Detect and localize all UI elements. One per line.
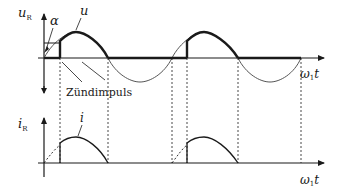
alpha-label: α <box>50 13 59 28</box>
ignition-pointer-2 <box>110 62 189 82</box>
load-current-pulse-1 <box>60 137 108 163</box>
i-curve-label: i <box>80 111 84 125</box>
load-voltage-segment-1 <box>60 32 108 58</box>
load-current-pulse-2 <box>187 137 238 163</box>
u-curve-label: u <box>80 3 88 18</box>
ignition-pointer-1 <box>62 62 82 82</box>
bottom-y-label: iR <box>18 116 28 133</box>
thyristor-phase-control-diagram: uR α u ω1t Zündimpuls iR i ω1t <box>0 0 344 193</box>
top-x-label: ω1t <box>300 67 319 82</box>
bottom-plot: iR i ω1t <box>18 111 324 188</box>
bottom-x-label: ω1t <box>300 173 319 188</box>
ignition-pulse-label: Zündimpuls <box>66 86 132 99</box>
load-voltage-segment-2 <box>187 32 238 58</box>
top-plot: uR α u ω1t Zündimpuls <box>18 3 324 99</box>
top-y-label: uR <box>18 5 32 22</box>
